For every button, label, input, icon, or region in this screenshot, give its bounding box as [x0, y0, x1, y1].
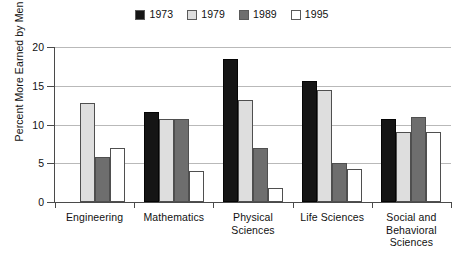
legend-label: 1989 — [253, 9, 277, 20]
x-axis-label-line: Sciences — [213, 224, 292, 237]
bar-1979-engineering — [80, 103, 95, 202]
y-tick-label: 0 — [16, 197, 44, 207]
bar-1973-physical-sciences — [223, 59, 238, 202]
bar-group-life-sciences — [302, 47, 362, 202]
x-tick-end — [451, 202, 452, 208]
bar-group-engineering — [65, 47, 125, 202]
bar-1979-physical-sciences — [238, 100, 253, 202]
black-square-swatch — [135, 10, 145, 20]
bar-1979-social-and-behavioral-sciences — [396, 132, 411, 202]
x-axis-label-line: Behavioral — [372, 224, 451, 237]
bar-1995-life-sciences — [347, 169, 362, 202]
bar-1973-life-sciences — [302, 81, 317, 202]
legend-entry-1979: 1979 — [187, 9, 225, 20]
y-tick-0 — [47, 202, 54, 203]
bar-1989-social-and-behavioral-sciences — [411, 117, 426, 202]
x-axis-label-social-and-behavioral-sciences: Social andBehavioralSciences — [372, 211, 451, 249]
bar-chart: 1973197919891995 Percent More Earned by … — [0, 0, 464, 257]
x-tick-end — [55, 202, 56, 208]
bar-1989-mathematics — [174, 119, 189, 202]
x-axis-label-mathematics: Mathematics — [134, 211, 213, 224]
legend-label: 1973 — [149, 9, 173, 20]
bar-1973-mathematics — [144, 112, 159, 202]
x-axis-line — [54, 202, 451, 203]
legend-label: 1979 — [201, 9, 225, 20]
y-tick-label: 10 — [16, 120, 44, 130]
light-gray-square-swatch — [187, 10, 197, 20]
x-axis-label-line: Physical — [213, 211, 292, 224]
x-axis-label-life-sciences: Life Sciences — [293, 211, 372, 224]
white-square-swatch — [291, 10, 301, 20]
x-tick — [213, 202, 214, 208]
y-tick-15 — [47, 86, 54, 87]
bar-1989-physical-sciences — [253, 148, 268, 202]
y-tick-label: 20 — [16, 42, 44, 52]
y-axis-tick-labels: 05101520 — [16, 47, 46, 202]
bar-1995-mathematics — [189, 171, 204, 202]
bar-1979-life-sciences — [317, 90, 332, 202]
legend-entry-1995: 1995 — [291, 9, 329, 20]
bar-1995-social-and-behavioral-sciences — [426, 132, 441, 202]
y-tick-20 — [47, 47, 54, 48]
bar-group-physical-sciences — [223, 47, 283, 202]
bar-1989-engineering — [95, 157, 110, 202]
medium-gray-square-swatch — [239, 10, 249, 20]
y-tick-label: 5 — [16, 158, 44, 168]
x-axis-label-physical-sciences: PhysicalSciences — [213, 211, 292, 236]
y-tick-10 — [47, 125, 54, 126]
x-axis-label-engineering: Engineering — [55, 211, 134, 224]
x-tick — [372, 202, 373, 208]
x-axis-label-line: Mathematics — [134, 211, 213, 224]
x-tick — [293, 202, 294, 208]
bar-group-mathematics — [144, 47, 204, 202]
x-axis-label-line: Sciences — [372, 236, 451, 249]
y-tick-5 — [47, 163, 54, 164]
bar-1979-mathematics — [159, 119, 174, 202]
y-tick-label: 15 — [16, 81, 44, 91]
x-axis-label-line: Social and — [372, 211, 451, 224]
bar-1995-physical-sciences — [268, 188, 283, 202]
x-axis-label-line: Life Sciences — [293, 211, 372, 224]
legend-entry-1989: 1989 — [239, 9, 277, 20]
x-axis-label-line: Engineering — [55, 211, 134, 224]
plot-area — [55, 47, 451, 202]
legend-label: 1995 — [305, 9, 329, 20]
bar-1995-engineering — [110, 148, 125, 202]
bar-group-social-and-behavioral-sciences — [381, 47, 441, 202]
bar-1989-life-sciences — [332, 163, 347, 202]
legend-entry-1973: 1973 — [135, 9, 173, 20]
x-tick — [134, 202, 135, 208]
chart-legend: 1973197919891995 — [0, 9, 464, 20]
bar-1973-social-and-behavioral-sciences — [381, 119, 396, 202]
